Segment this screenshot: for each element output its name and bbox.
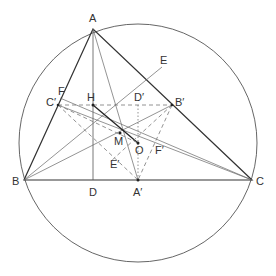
label-cprime: C′ [46, 96, 56, 108]
label-bprime: B′ [175, 96, 184, 108]
label-c: C [256, 175, 264, 187]
label-h: H [87, 91, 95, 103]
label-f: F [58, 85, 65, 97]
label-aprime: A′ [133, 186, 142, 198]
label-b: B [12, 175, 19, 187]
point-cprime [57, 104, 60, 107]
line-c-cprime [58, 105, 252, 180]
label-fprime: F′ [155, 144, 164, 156]
point-bprime [171, 104, 174, 107]
dashed-cprime-o [58, 105, 138, 143]
label-dprime: D′ [134, 91, 144, 103]
median-bb [24, 105, 172, 180]
label-o: O [135, 144, 144, 156]
point-h [92, 104, 95, 107]
geometry-diagram: A B C D E F H M O A′ B′ C′ D′ E′ F′ [0, 0, 276, 276]
label-eprime: E′ [110, 158, 119, 170]
label-a: A [89, 12, 97, 24]
label-m: M [114, 135, 123, 147]
altitude-cf [60, 98, 252, 180]
point-aprime [137, 179, 140, 182]
label-d: D [89, 186, 97, 198]
label-e: E [160, 54, 167, 66]
